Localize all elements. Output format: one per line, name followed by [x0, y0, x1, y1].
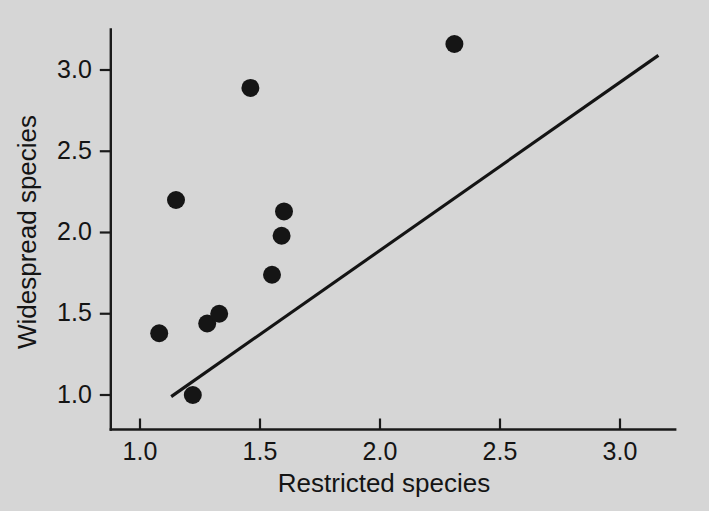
data-point-8: [275, 202, 293, 220]
x-tick-label-2.0: 2.0: [363, 437, 398, 465]
data-point-7: [273, 227, 291, 245]
tick-labels: 1.01.52.02.53.01.01.52.02.53.0: [57, 55, 637, 465]
y-tick-label-3.0: 3.0: [57, 55, 92, 83]
data-point-9: [445, 35, 463, 53]
data-point-1: [167, 191, 185, 209]
x-tick-label-1.0: 1.0: [123, 437, 158, 465]
data-point-2: [184, 386, 202, 404]
y-tick-label-2.5: 2.5: [57, 136, 92, 164]
y-axis-title: Widespread species: [12, 115, 42, 349]
data-points: [150, 35, 463, 404]
fitted-line: [171, 55, 658, 396]
y-tick-label-2.0: 2.0: [57, 217, 92, 245]
scatter-plot-figure: 1.01.52.02.53.01.01.52.02.53.0 Restricte…: [0, 0, 709, 511]
y-tick-label-1.5: 1.5: [57, 298, 92, 326]
data-point-5: [241, 79, 259, 97]
x-tick-label-3.0: 3.0: [603, 437, 638, 465]
x-tick-label-2.5: 2.5: [483, 437, 518, 465]
axes: [111, 29, 675, 429]
plot-canvas: 1.01.52.02.53.01.01.52.02.53.0 Restricte…: [0, 0, 709, 511]
y-tick-label-1.0: 1.0: [57, 380, 92, 408]
data-point-4: [210, 305, 228, 323]
data-point-6: [263, 266, 281, 284]
x-axis-title: Restricted species: [278, 468, 490, 498]
tick-marks: [100, 70, 620, 430]
regression-line: [171, 55, 658, 396]
x-tick-label-1.5: 1.5: [243, 437, 278, 465]
data-point-0: [150, 324, 168, 342]
